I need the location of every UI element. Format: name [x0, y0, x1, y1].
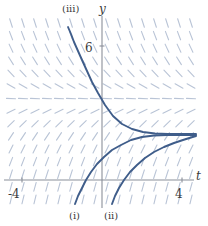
- slope-field-tick: [81, 157, 84, 165]
- slope-field-tick: [93, 57, 98, 65]
- slope-field-tick: [105, 133, 110, 141]
- slope-field-tick: [187, 84, 195, 88]
- slope-field-tick: [190, 19, 193, 28]
- slope-field-tick: [33, 157, 36, 165]
- slope-field-tick: [57, 157, 60, 165]
- slope-field-tick: [46, 182, 48, 191]
- slope-field-tick: [142, 182, 144, 191]
- slope-field-tick: [164, 121, 170, 127]
- slope-field-tick: [106, 195, 108, 204]
- slope-field-tick: [165, 57, 170, 65]
- slope-field-tick: [33, 133, 38, 141]
- slope-field-tick: [105, 57, 110, 65]
- slope-field-tick: [177, 57, 182, 65]
- slope-field-tick: [190, 195, 192, 204]
- slope-field-tick: [177, 31, 180, 39]
- slope-field-tick: [154, 19, 157, 28]
- slope-field-tick: [153, 44, 157, 52]
- slope-field-tick: [189, 44, 193, 52]
- slope-field-tick: [56, 121, 62, 127]
- slope-field-tick: [190, 170, 193, 179]
- slope-field-tick: [189, 57, 194, 65]
- slope-field-tick: [45, 31, 48, 39]
- slope-field-tick: [130, 182, 132, 191]
- slope-field-tick: [33, 31, 36, 39]
- slope-field-tick: [187, 109, 195, 113]
- slope-field-tick: [94, 182, 96, 191]
- x-tick-label-4: 4: [175, 188, 183, 200]
- slope-field-tick: [165, 44, 169, 52]
- slope-field-tick: [46, 195, 48, 204]
- slope-field-tick: [177, 157, 180, 165]
- slope-field-tick: [129, 145, 133, 153]
- slope-field-tick: [43, 84, 51, 88]
- slope-field-tick: [44, 121, 50, 127]
- slope-field-tick: [70, 19, 73, 28]
- slope-field-tick: [34, 195, 36, 204]
- slope-field-tick: [67, 84, 75, 88]
- slope-field-tick: [166, 195, 168, 204]
- slope-field-tick: [154, 170, 157, 179]
- slope-field-tick: [9, 57, 14, 65]
- slope-field-tick: [20, 70, 26, 77]
- slope-field-tick: [81, 31, 84, 39]
- slope-field-tick: [153, 157, 156, 165]
- slope-field-tick: [31, 84, 39, 88]
- slope-field-tick: [67, 109, 75, 113]
- slope-field-tick: [151, 84, 159, 88]
- slope-field-tick: [129, 44, 133, 52]
- slope-field-tick: [58, 195, 60, 204]
- slope-field-tick: [117, 133, 122, 141]
- slope-field-tick: [117, 157, 120, 165]
- slope-field-tick: [166, 170, 169, 179]
- slope-field-tick: [9, 31, 12, 39]
- slope-field-tick: [58, 19, 61, 28]
- slope-field-tick: [140, 121, 146, 127]
- slope-field-tick: [57, 145, 61, 153]
- slope-field-tick: [129, 31, 132, 39]
- slope-field-tick: [151, 109, 159, 113]
- slope-field-tick: [105, 145, 109, 153]
- slope-field-tick: [45, 44, 49, 52]
- slope-field-tick: [70, 195, 72, 204]
- slope-field-tick: [70, 182, 72, 191]
- slope-field-tick: [80, 70, 86, 77]
- slope-field-tick: [153, 57, 158, 65]
- slope-field-tick: [56, 70, 62, 77]
- slope-field-tick: [141, 44, 145, 52]
- slope-field-tick: [22, 195, 24, 204]
- slope-field-tick: [33, 57, 38, 65]
- slope-field-tick: [79, 84, 87, 88]
- slope-field-tick: [165, 157, 168, 165]
- slope-field-tick: [45, 157, 48, 165]
- slope-field-tick: [166, 19, 169, 28]
- slope-field-tick: [33, 44, 37, 52]
- slope-field-tick: [106, 182, 108, 191]
- slope-field-tick: [105, 44, 109, 52]
- slope-field-tick: [22, 182, 24, 191]
- slope-field-tick: [153, 31, 156, 39]
- slope-field-tick: [154, 182, 156, 191]
- slope-field-tick: [21, 133, 26, 141]
- slope-field-tick: [45, 133, 50, 141]
- slope-field-tick: [34, 170, 37, 179]
- slope-field-tick: [9, 44, 13, 52]
- slope-field-tick: [166, 182, 168, 191]
- slope-field-tick: [176, 121, 182, 127]
- slope-field-tick: [118, 19, 121, 28]
- slope-field-tick: [68, 70, 74, 77]
- slope-field-tick: [21, 145, 25, 153]
- slope-field-tick: [21, 31, 24, 39]
- slope-field-tick: [82, 19, 85, 28]
- slope-field-tick: [92, 121, 98, 127]
- slope-field-tick: [106, 19, 109, 28]
- slope-field-tick: [139, 84, 147, 88]
- slope-field-tick: [163, 84, 171, 88]
- slope-field-tick: [117, 57, 122, 65]
- slope-field-tick: [128, 121, 134, 127]
- slope-field-tick: [130, 19, 133, 28]
- slope-field-tick: [57, 57, 62, 65]
- slope-field-tick: [177, 44, 181, 52]
- slope-field-figure: (iii) (i) (ii) y t -4 4 6: [0, 0, 208, 226]
- slope-field-tick: [45, 57, 50, 65]
